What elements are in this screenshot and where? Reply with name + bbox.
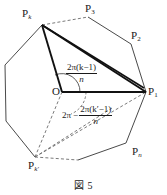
angle-expression-lower: 2π − 2π(k′−1) n [62, 104, 112, 126]
vertex-label-pk: Pk [22, 8, 31, 19]
polygon-outline [5, 17, 146, 160]
geometry-diagram [0, 0, 167, 195]
angle-lower-fraction: 2π(k′−1) n [79, 104, 112, 126]
angle-expression-upper: 2π(k−1) n [66, 62, 97, 84]
vertex-label-p3: P3 [85, 3, 95, 14]
angle-lower-numerator: 2π(k′−1) [79, 104, 112, 114]
angle-upper-denominator: n [66, 74, 97, 84]
figure-caption: 図 5 [0, 177, 167, 192]
vertex-label-p1: P1 [148, 86, 158, 97]
vertex-label-pn: Pn [132, 146, 142, 157]
figure-container: Pk P3 P2 P1 Pn Pk′ O 2π(k−1) n 2π − 2π(k… [0, 0, 167, 195]
angle-lower-minus: − [73, 110, 78, 120]
angle-lower-lead: 2π [62, 110, 71, 120]
angle-upper-numerator: 2π(k−1) [66, 62, 97, 72]
angle-lower-denominator: n [79, 116, 112, 126]
origin-label: O [52, 86, 60, 97]
vertex-label-p2: P2 [131, 30, 141, 41]
vertex-label-pk-prime: Pk′ [28, 160, 39, 171]
